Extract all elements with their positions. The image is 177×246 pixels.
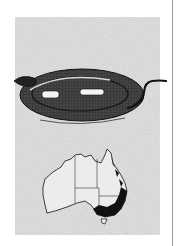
page-margin-rule bbox=[172, 0, 173, 246]
snake-illustration bbox=[0, 50, 177, 130]
australia-distribution-map bbox=[35, 145, 135, 225]
